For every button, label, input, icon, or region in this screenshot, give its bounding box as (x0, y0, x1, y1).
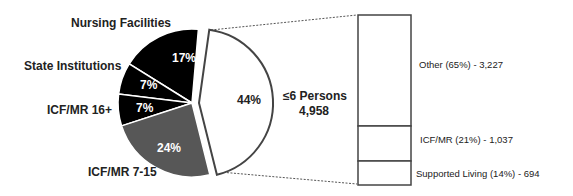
pie-of-bar-chart: 17% 7% 7% 24% 44% Nursing Facilities Sta… (0, 0, 573, 196)
label-nursing-facilities: Nursing Facilities (71, 16, 171, 30)
label-state-institutions: State Institutions (24, 59, 122, 73)
label-icfmr-16plus: ICF/MR 16+ (47, 103, 112, 117)
breakdown-bar (358, 15, 411, 185)
label-icfmr-7-15: ICF/MR 7-15 (88, 165, 157, 179)
bar-segment-supported-living (358, 161, 411, 185)
label-6-persons: ≤6 Persons (283, 89, 347, 103)
pct-7-icf16: 7% (136, 101, 154, 115)
connector-bottom (220, 172, 357, 184)
pct-24: 24% (157, 141, 181, 155)
pct-17: 17% (172, 51, 196, 65)
bar-label-other: Other (65%) - 3,227 (419, 59, 503, 70)
pct-44: 44% (237, 93, 261, 107)
label-6-persons-count: 4,958 (299, 104, 329, 118)
bar-segment-other (358, 15, 411, 126)
bar-segment-icfmr (358, 126, 411, 161)
pct-7-state: 7% (140, 78, 158, 92)
bar-label-icfmr: ICF/MR (21%) - 1,037 (420, 134, 513, 145)
connector-top (211, 15, 357, 30)
bar-label-supported-living: Supported Living (14%) - 694 (416, 168, 540, 179)
persons-text: 6 Persons (290, 89, 348, 103)
